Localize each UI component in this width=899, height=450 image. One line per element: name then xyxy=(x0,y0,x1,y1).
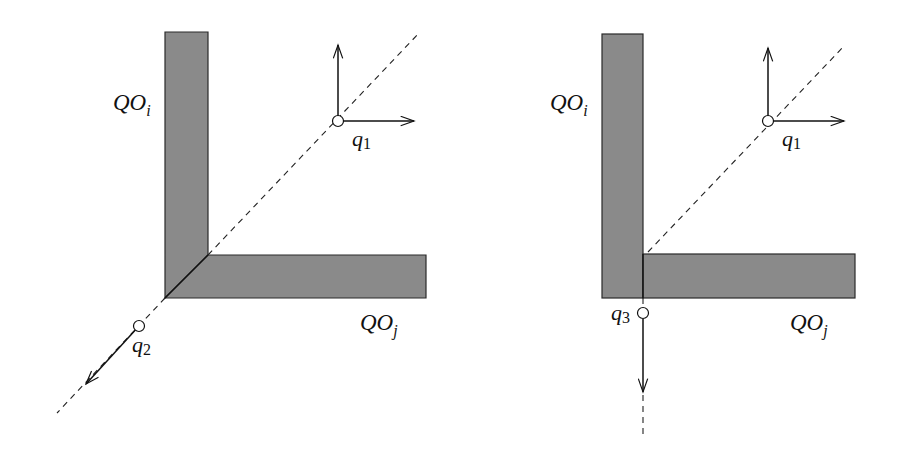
obstacle-qoj-left xyxy=(165,255,426,298)
label-qoj-left: QOj xyxy=(360,310,398,340)
obstacle-qoi-left xyxy=(165,32,208,298)
label-q3: q3 xyxy=(611,300,630,326)
q2-point xyxy=(134,321,145,332)
label-q2: q2 xyxy=(132,332,151,358)
right-panel: QOi q1 QOj q3 xyxy=(550,34,855,434)
label-qoi-left: QOi xyxy=(113,90,151,119)
q1-point-right xyxy=(763,116,774,127)
obstacle-qoj-right xyxy=(643,254,855,298)
q3-point xyxy=(638,308,649,319)
label-qoi-right: QOi xyxy=(550,90,588,119)
dashed-diagonal-upper-left xyxy=(208,32,420,255)
label-q1-right: q1 xyxy=(782,126,801,152)
left-panel: QOi q1 QOj q2 xyxy=(57,32,426,413)
label-q1-left: q1 xyxy=(352,126,371,152)
q1-point-left xyxy=(333,116,344,127)
diagram-canvas: QOi q1 QOj q2 QOi q1 QOj q3 xyxy=(0,0,899,450)
obstacle-qoi-right xyxy=(602,34,643,298)
label-qoj-right: QOj xyxy=(790,310,828,340)
dashed-diagonal-right xyxy=(648,45,845,252)
